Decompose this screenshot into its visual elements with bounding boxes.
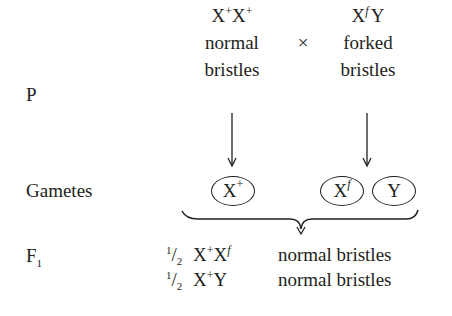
arrow-icon: [228, 113, 236, 166]
gamete-oval: Y: [372, 176, 416, 206]
f1-genotype: X+Y: [193, 269, 227, 290]
curly-brace-icon: [182, 210, 418, 229]
f1-row: 1/2 X+Xf: [166, 244, 231, 268]
fraction: 1/2: [166, 244, 182, 265]
f1-genotype: X+Xf: [193, 244, 231, 265]
gamete-oval: Xf: [320, 176, 364, 206]
f1-row: 1/2 X+Y: [166, 269, 227, 293]
gamete-superscript: +: [236, 177, 243, 192]
gamete-superscript: f: [347, 177, 350, 192]
gamete-base: X: [223, 180, 237, 202]
gamete-base: X: [333, 180, 347, 202]
gamete-base: Y: [387, 180, 401, 202]
f1-phenotype: normal bristles: [278, 244, 391, 266]
f1-phenotype: normal bristles: [278, 269, 391, 291]
fraction: 1/2: [166, 269, 182, 290]
arrow-icon: [363, 113, 371, 166]
gamete-oval: X+: [211, 176, 255, 206]
